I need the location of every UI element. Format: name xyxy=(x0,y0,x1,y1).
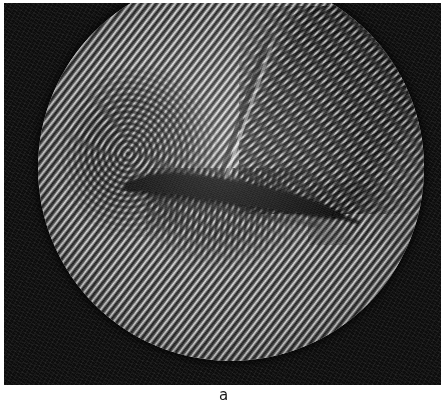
figure-panel: a xyxy=(0,0,447,405)
airfoil-wake xyxy=(308,183,424,245)
figure-caption-label: a xyxy=(0,386,447,404)
circular-test-section-window xyxy=(38,3,424,361)
interferogram-photograph xyxy=(4,3,441,385)
interference-fringes-supersonic-pocket xyxy=(146,168,324,284)
